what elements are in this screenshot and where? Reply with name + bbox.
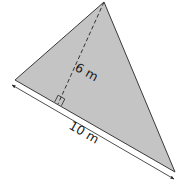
triangle-area-diagram: 6 m 10 m bbox=[0, 0, 176, 187]
triangle-shape bbox=[15, 2, 175, 172]
